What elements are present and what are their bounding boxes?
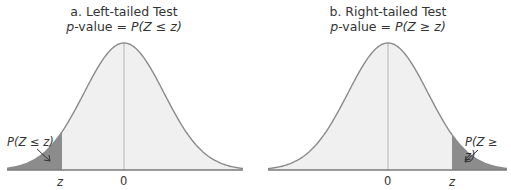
right-tick-zero: 0 [384, 174, 391, 188]
left-tailed-curve [7, 43, 243, 170]
shade-label-text: P(Z ≤ z) [7, 135, 54, 149]
left-tick-zero: 0 [120, 174, 127, 188]
shade-label-text: P(Z ≥ z) [465, 135, 498, 163]
left-tick-z: z [57, 175, 63, 189]
normal-curves-diagram [0, 0, 511, 190]
left-shade-label: P(Z ≤ z) [7, 135, 54, 149]
right-shade-label: P(Z ≥ z) [465, 135, 511, 163]
right-tick-z: z [449, 175, 455, 189]
